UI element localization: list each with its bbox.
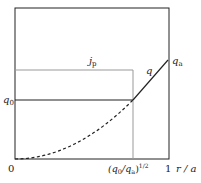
qa-label: qa xyxy=(172,55,183,68)
jp-current-profile xyxy=(15,70,133,159)
origin-label: 0 xyxy=(8,163,14,174)
q-label: q xyxy=(146,65,152,76)
x-axis-label: r / a xyxy=(176,163,197,174)
q0-label: q0 xyxy=(3,94,14,107)
x-one-label: 1 xyxy=(165,163,171,174)
q-profile-diagram: jp q qa q0 0 (q0/qa)1/2 1 r / a xyxy=(0,0,201,183)
dashed-parabola xyxy=(15,100,133,159)
x-break-label: (q0/qa)1/2 xyxy=(108,162,149,176)
jp-label: jp xyxy=(87,55,97,68)
plot-frame xyxy=(15,8,169,159)
